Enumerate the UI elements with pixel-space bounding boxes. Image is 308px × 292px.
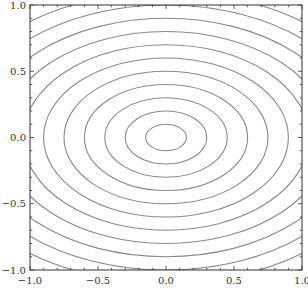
x-axis-tick-labels: −1.0−0.50.00.51.0 [18, 275, 308, 286]
contour-lines [0, 0, 308, 283]
y-axis-tick-labels: −1.0−0.50.00.51.0 [2, 0, 26, 276]
y-tick-label: −0.5 [2, 198, 26, 209]
x-tick-label: 0.0 [158, 275, 174, 286]
contour-plot: −1.0−0.50.00.51.0 −1.0−0.50.00.51.0 [0, 0, 308, 292]
contour-line [44, 58, 289, 217]
contour-line [23, 45, 308, 231]
x-tick-label: 1.0 [294, 275, 308, 286]
y-tick-label: −1.0 [2, 265, 26, 276]
x-tick-label: 0.5 [226, 275, 242, 286]
contour-line [146, 124, 187, 151]
contour-line [125, 111, 207, 164]
x-tick-label: −1.0 [18, 275, 42, 286]
y-tick-label: 0.0 [10, 132, 26, 143]
contour-line [84, 85, 247, 191]
x-tick-label: −0.5 [86, 275, 110, 286]
y-tick-label: 0.5 [10, 66, 26, 77]
contour-line [64, 71, 268, 204]
contour-line [105, 98, 227, 178]
contour-line [0, 0, 308, 283]
contour-line [0, 18, 308, 257]
y-tick-label: 1.0 [10, 0, 26, 11]
contour-line [3, 32, 308, 244]
